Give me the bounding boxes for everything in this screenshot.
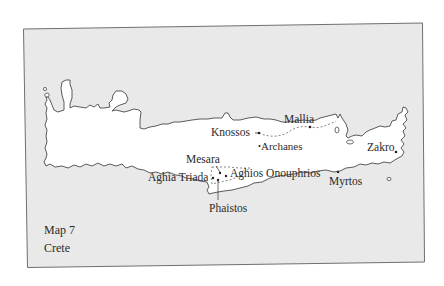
site-label-knossos: Knossos: [211, 127, 250, 139]
map-crete: Knossos Mallia Archanes Mesara Aghia Tri…: [0, 0, 444, 286]
islet-pseira: [347, 140, 354, 144]
site-label-mesara: Mesara: [186, 154, 220, 166]
site-dot-phaistos: [217, 179, 219, 181]
site-dot-myrtos: [337, 171, 339, 173]
islet-koufonisi: [387, 177, 391, 180]
site-dot-zakro: [395, 151, 398, 154]
map-title: Crete: [44, 242, 70, 254]
site-label-aghios-onouphrios: Aghios Onouphrios: [230, 168, 320, 180]
site-dot-mesara: [219, 172, 221, 174]
islet-gramvousa: [43, 87, 46, 90]
islet-spinalonga: [335, 127, 339, 133]
site-dot-knossos: [258, 132, 261, 135]
site-label-zakro: Zakro: [367, 142, 394, 154]
site-label-aghia-triada: Aghia Triada: [148, 172, 208, 184]
site-label-myrtos: Myrtos: [329, 176, 362, 188]
map-number: Map 7: [44, 224, 75, 236]
site-dot-aghios-onouphrios: [225, 175, 227, 177]
site-label-mallia: Mallia: [284, 114, 314, 126]
site-label-phaistos: Phaistos: [209, 203, 247, 215]
site-dot-mallia: [309, 126, 312, 129]
islet-west: [45, 93, 49, 97]
site-label-archanes: Archanes: [261, 141, 303, 152]
site-dot-aghia-triada: [212, 177, 214, 179]
